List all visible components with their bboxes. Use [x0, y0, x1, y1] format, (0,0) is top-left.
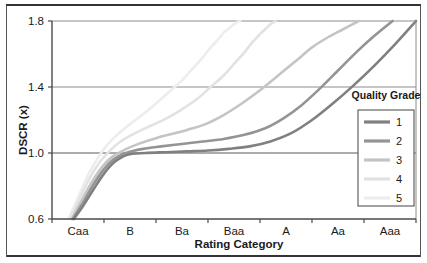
y-tick-label-0.6: 0.6 — [28, 213, 44, 225]
figure-container: 0.61.01.41.8 CaaBBaBaaAAaAaa DSCR (x) Ra… — [0, 0, 427, 263]
x-tick-label-baa: Baa — [224, 225, 245, 237]
x-tick-label-aa: Aa — [331, 225, 346, 237]
x-tick-labels-group: CaaBBaBaaAAaAaa — [67, 225, 400, 237]
series-line-4 — [70, 21, 275, 219]
legend-label-5[interactable]: 5 — [396, 192, 402, 204]
y-tick-label-1.4: 1.4 — [28, 81, 45, 93]
y-tick-label-1.8: 1.8 — [28, 15, 44, 27]
legend-label-2[interactable]: 2 — [396, 135, 402, 147]
legend-title: Quality Grade — [352, 89, 421, 101]
x-tick-label-caa: Caa — [67, 225, 89, 237]
legend-box — [358, 110, 414, 206]
y-tick-labels-group: 0.61.01.41.8 — [28, 15, 45, 225]
y-tick-label-1.0: 1.0 — [28, 147, 44, 159]
legend-label-3[interactable]: 3 — [396, 154, 402, 166]
x-axis-title: Rating Category — [195, 238, 284, 250]
x-tick-label-aaa: Aaa — [380, 225, 401, 237]
y-axis-title: DSCR (x) — [17, 105, 29, 155]
legend-label-1[interactable]: 1 — [396, 116, 402, 128]
x-tick-label-ba: Ba — [175, 225, 190, 237]
x-tick-label-b: B — [126, 225, 134, 237]
series-line-2 — [73, 21, 393, 219]
legend-label-4[interactable]: 4 — [396, 173, 402, 185]
dscr-rating-line-chart: 0.61.01.41.8 CaaBBaBaaAAaAaa DSCR (x) Ra… — [0, 0, 427, 263]
series-line-3 — [72, 21, 359, 219]
x-tick-label-a: A — [282, 225, 290, 237]
legend[interactable]: Quality Grade 12345 — [352, 89, 421, 206]
